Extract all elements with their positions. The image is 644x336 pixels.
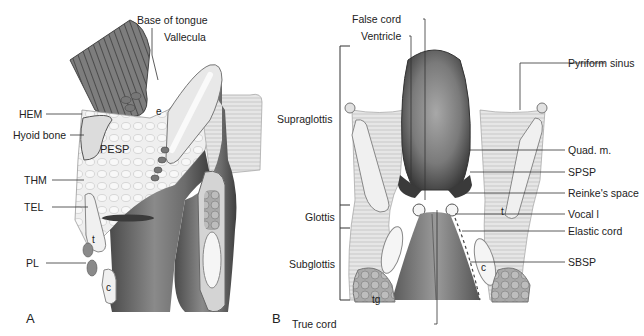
panel-letter-a: A [26, 311, 35, 326]
label-thm: THM [24, 174, 47, 186]
label-ventricle: Ventricle [361, 30, 401, 42]
label-thyroid-gland-tg: tg [372, 294, 380, 305]
larynx-illustration [0, 0, 644, 336]
label-subglottis: Subglottis [289, 258, 335, 270]
label-supraglottis: Supraglottis [277, 113, 332, 125]
label-hyoid-bone: Hyoid bone [13, 129, 66, 141]
label-pyriform-sinus: Pyriform sinus [568, 57, 635, 69]
label-cricoid-c-b: c [481, 262, 486, 273]
label-epiglottis-e: e [156, 106, 162, 117]
panel-b-illustration [340, 19, 605, 324]
label-base-of-tongue: Base of tongue [137, 14, 208, 26]
panel-a-illustration [46, 20, 262, 312]
label-quad-m: Quad. m. [568, 144, 611, 156]
label-thyroid-t-b: t [501, 206, 504, 217]
label-tel: TEL [24, 201, 43, 213]
label-pl: PL [26, 257, 39, 269]
panel-letter-b: B [272, 311, 281, 326]
label-reinkes-space: Reinke's space [568, 187, 639, 199]
label-true-cord: True cord [292, 318, 337, 330]
label-glottis: Glottis [305, 211, 335, 223]
label-elastic-cord: Elastic cord [568, 225, 622, 237]
label-sbsp: SBSP [568, 256, 596, 268]
label-spsp: SPSP [568, 166, 596, 178]
label-vallecula: Vallecula [164, 31, 206, 43]
label-hem: HEM [19, 108, 42, 120]
label-false-cord: False cord [352, 13, 401, 25]
label-thyroid-t-a: t [92, 234, 95, 245]
label-cricoid-c-a: c [106, 282, 111, 293]
label-pesp: PESP [100, 143, 129, 155]
label-vocal-l: Vocal l [568, 208, 599, 220]
